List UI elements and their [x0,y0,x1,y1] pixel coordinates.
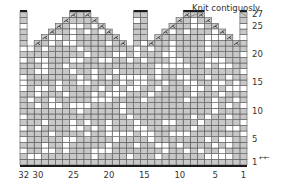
chart-cell [63,63,70,69]
chart-cell [219,40,226,46]
chart-cell [91,46,98,52]
chart-cell [226,108,233,114]
chart-cell [183,57,190,63]
chart-cell [226,125,233,131]
chart-cell [27,120,34,126]
chart-cell [20,12,27,18]
chart-cell [141,40,148,46]
chart-cell [98,63,105,69]
chart-cell [20,91,27,97]
chart-cell [70,125,77,131]
chart-cell [176,57,183,63]
chart-cell [204,69,211,75]
chart-cell [169,74,176,80]
chart-cell [134,18,141,24]
chart-cell [148,120,155,126]
chart-cell [190,18,197,24]
chart-cell [240,120,247,126]
chart-cell [91,108,98,114]
chart-cell [126,114,133,120]
chart-cell [233,97,240,103]
chart-cell [55,80,62,86]
chart-cell [70,91,77,97]
chart-cell [112,131,119,137]
chart-cell [55,35,62,41]
column-label: 10 [174,171,185,180]
chart-cell [98,137,105,143]
chart-cell [84,159,91,165]
chart-cell [219,57,226,63]
chart-cell [233,148,240,154]
chart-cell [204,131,211,137]
chart-cell [176,74,183,80]
chart-cell [41,69,48,75]
chart-cell [183,159,190,165]
bind-off-bar [20,10,27,12]
chart-cell [77,35,84,41]
chart-cell [240,57,247,63]
chart-cell [212,103,219,109]
chart-cell [197,52,204,58]
chart-cell [155,52,162,58]
chart-cell [169,80,176,86]
chart-cell [48,91,55,97]
chart-cell [190,114,197,120]
chart-cell [197,114,204,120]
chart-cell [48,63,55,69]
chart-cell [70,35,77,41]
chart-cell [169,148,176,154]
chart-cell [98,142,105,148]
chart-cell [77,86,84,92]
chart-cell [134,154,141,160]
chart-cell [141,29,148,35]
chart-cell [219,125,226,131]
chart-cell [70,142,77,148]
chart-cell [148,125,155,131]
chart-cell [141,86,148,92]
chart-cell [70,108,77,114]
chart-cell [141,52,148,58]
chart-cell [204,57,211,63]
chart-cell [119,74,126,80]
chart-cell [190,23,197,29]
chart-cell [84,97,91,103]
chart-cell [63,108,70,114]
chart-cell [233,69,240,75]
chart-cell [169,57,176,63]
chart-cell [70,86,77,92]
chart-cell [204,125,211,131]
chart-cell [98,86,105,92]
chart-cell [55,57,62,63]
chart-cell [105,120,112,126]
chart-cell [190,86,197,92]
chart-cell [155,108,162,114]
chart-cell [155,154,162,160]
chart-cell [162,91,169,97]
chart-cell [134,80,141,86]
chart-cell [84,57,91,63]
chart-cell [41,52,48,58]
chart-cell [197,29,204,35]
chart-cell [176,69,183,75]
chart-cell [119,159,126,165]
chart-cell [34,131,41,137]
chart-cell [141,120,148,126]
chart-cell [233,91,240,97]
chart-cell [162,108,169,114]
chart-cell [204,91,211,97]
chart-cell [105,159,112,165]
chart-cell [48,154,55,160]
chart-cell [183,86,190,92]
chart-cell [70,18,77,24]
chart-cell [98,46,105,52]
chart-cell [148,57,155,63]
chart-cell [55,69,62,75]
chart-cell [176,97,183,103]
chart-cell [34,125,41,131]
chart-cell [176,35,183,41]
chart-cell [212,159,219,165]
chart-cell [27,46,34,52]
chart-cell [20,108,27,114]
chart-cell [84,86,91,92]
chart-cell [27,154,34,160]
